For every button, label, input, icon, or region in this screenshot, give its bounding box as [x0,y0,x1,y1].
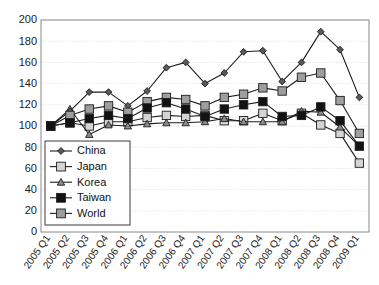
data-point-taiwan [124,114,132,122]
data-point-world [259,84,267,92]
data-point-japan [355,159,363,167]
legend-label-japan: Japan [77,160,107,172]
data-point-taiwan [278,112,286,120]
data-point-world [278,87,286,95]
y-tick-label: 120 [19,98,37,110]
legend-label-korea: Korea [77,176,107,188]
legend-label-taiwan: Taiwan [77,191,111,203]
data-point-world [201,102,209,110]
data-point-taiwan [162,98,170,106]
data-point-taiwan [317,103,325,111]
legend-item-world[interactable]: World [50,207,106,219]
data-point-world [104,102,112,110]
legend-marker-world [57,209,66,218]
y-tick-label: 100 [19,119,37,131]
legend-label-world: World [77,207,106,219]
chart-container: 020406080100120140160180200 2005 Q12005 … [0,0,379,285]
y-tick-label: 40 [25,183,37,195]
data-point-world [336,96,344,104]
data-point-japan [259,109,267,117]
data-point-taiwan [143,104,151,112]
y-tick-label: 140 [19,77,37,89]
data-point-taiwan [66,119,74,127]
line-chart: 020406080100120140160180200 2005 Q12005 … [0,0,379,285]
y-tick-label: 180 [19,35,37,47]
y-tick-label: 0 [31,225,37,237]
data-point-world [317,69,325,77]
data-point-taiwan [220,105,228,113]
data-point-world [220,93,228,101]
legend-item-taiwan[interactable]: Taiwan [50,191,111,203]
data-point-taiwan [259,97,267,105]
data-point-world [239,90,247,98]
data-point-taiwan [182,105,190,113]
data-point-world [297,73,305,81]
data-point-taiwan [85,114,93,122]
legend-marker-japan [57,162,66,171]
data-point-taiwan [336,117,344,125]
legend-label-china: China [77,144,107,156]
data-point-world [85,105,93,113]
data-point-taiwan [201,112,209,120]
data-point-taiwan [355,142,363,150]
y-tick-label: 80 [25,141,37,153]
chart-legend: ChinaJapanKoreaTaiwanWorld [45,141,130,225]
y-tick-label: 20 [25,204,37,216]
data-point-taiwan [239,101,247,109]
legend-marker-taiwan [57,193,66,202]
y-tick-label: 160 [19,56,37,68]
data-point-japan [317,121,325,129]
data-point-taiwan [297,111,305,119]
legend-item-japan[interactable]: Japan [50,160,107,172]
data-point-taiwan [46,122,54,130]
data-point-world [182,95,190,103]
y-tick-label: 60 [25,162,37,174]
y-tick-label: 200 [19,13,37,25]
data-point-taiwan [104,111,112,119]
data-point-world [355,129,363,137]
